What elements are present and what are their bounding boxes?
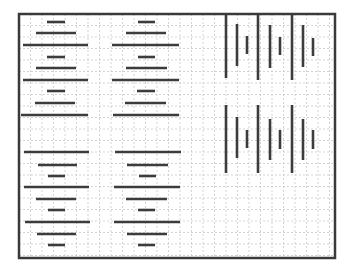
line-pattern-diagram <box>0 0 349 276</box>
diagram-canvas <box>0 0 349 276</box>
vertical-bars-group <box>226 14 313 173</box>
